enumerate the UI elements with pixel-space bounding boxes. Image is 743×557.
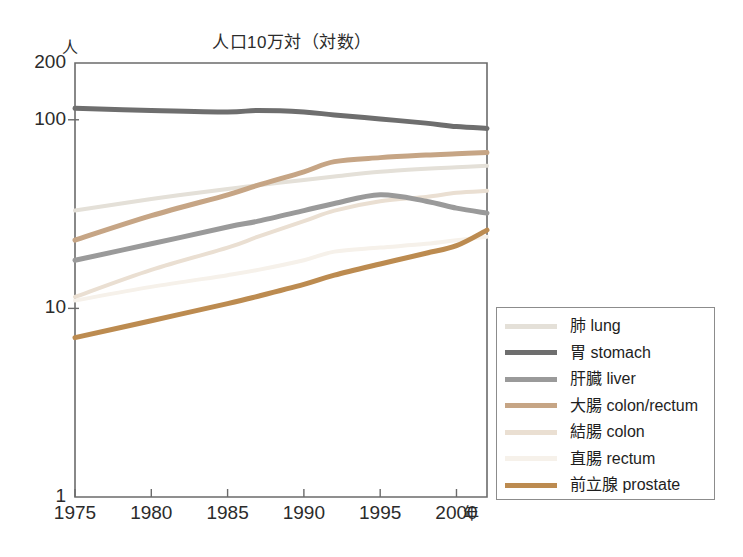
x-axis-tick-label: 1975 — [35, 502, 115, 524]
legend-item-label: 前立腺 prostate — [570, 477, 680, 493]
legend-item[interactable]: 直腸 rectum — [505, 446, 655, 472]
x-axis-tick-label: 1980 — [111, 502, 191, 524]
legend-item[interactable]: 結腸 colon — [505, 419, 645, 445]
legend-color-swatch — [505, 377, 557, 382]
legend-color-swatch — [505, 483, 557, 488]
legend-item[interactable]: 前立腺 prostate — [505, 472, 680, 498]
legend-item[interactable]: 肝臓 liver — [505, 366, 636, 392]
legend-item-label: 結腸 colon — [570, 424, 645, 440]
legend-color-swatch — [505, 350, 557, 355]
plot-frame — [75, 63, 487, 497]
legend-item[interactable]: 肺 lung — [505, 313, 621, 339]
legend-item-label: 大腸 colon/rectum — [570, 398, 698, 414]
series-line — [75, 166, 487, 211]
legend-color-swatch — [505, 456, 557, 461]
legend-item[interactable]: 大腸 colon/rectum — [505, 393, 698, 419]
legend-color-swatch — [505, 324, 557, 329]
legend-item-label: 肝臓 liver — [570, 371, 636, 387]
chart-legend: 肺 lung胃 stomach肝臓 liver大腸 colon/rectum結腸… — [496, 307, 715, 500]
y-axis-tick-label: 10 — [8, 296, 66, 318]
x-axis-tick-label: 1995 — [340, 502, 420, 524]
y-axis-tick-label: 100 — [8, 108, 66, 130]
legend-item-label: 肺 lung — [570, 318, 621, 334]
legend-color-swatch — [505, 430, 557, 435]
x-axis-tick-label: 2000 — [416, 502, 496, 524]
legend-item[interactable]: 胃 stomach — [505, 340, 651, 366]
x-axis-tick-label: 1990 — [264, 502, 344, 524]
legend-item-label: 直腸 rectum — [570, 451, 655, 467]
x-axis-tick-label: 1985 — [188, 502, 268, 524]
y-axis-tick-label: 200 — [8, 51, 66, 73]
legend-color-swatch — [505, 403, 557, 408]
chart-figure: 人口10万対（対数） 人 年 肺 lung胃 stomach肝臓 liver大腸… — [0, 0, 743, 557]
series-line — [75, 108, 487, 128]
legend-item-label: 胃 stomach — [570, 345, 651, 361]
